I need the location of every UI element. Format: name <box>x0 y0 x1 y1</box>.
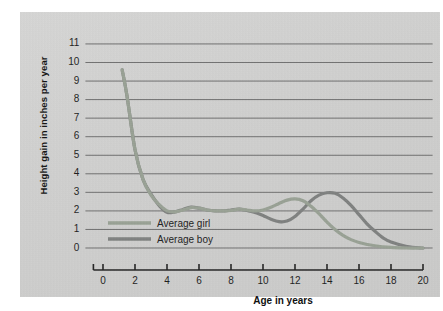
y-tick-label: 9 <box>61 75 79 86</box>
y-tick-label: 7 <box>61 112 79 123</box>
x-tick-label: 4 <box>157 275 177 286</box>
x-tick-label: 20 <box>413 275 433 286</box>
x-tick-label: 0 <box>93 275 113 286</box>
x-tick-label: 8 <box>221 275 241 286</box>
chart-panel: 01234567891011 02468101214161820 Height … <box>20 12 440 297</box>
y-tick-label: 2 <box>61 204 79 215</box>
x-tick-label: 18 <box>381 275 401 286</box>
x-tick-label: 12 <box>285 275 305 286</box>
chart-figure: 01234567891011 02468101214161820 Height … <box>0 0 443 311</box>
y-tick-label: 10 <box>61 56 79 67</box>
y-tick-label: 3 <box>61 186 79 197</box>
y-axis-title: Height gain in inches per year <box>38 46 49 206</box>
y-tick-label: 5 <box>61 149 79 160</box>
x-tick-label: 16 <box>349 275 369 286</box>
y-tick-label: 11 <box>61 37 79 48</box>
gridline-group <box>85 44 432 248</box>
y-tick-label: 8 <box>61 93 79 104</box>
y-tick-label: 6 <box>61 130 79 141</box>
y-tick-label: 4 <box>61 167 79 178</box>
x-tick-label: 10 <box>253 275 273 286</box>
x-tick-label: 14 <box>317 275 337 286</box>
y-tick-label: 1 <box>61 223 79 234</box>
x-tick-label: 2 <box>125 275 145 286</box>
legend-label-boy: Average boy <box>157 234 213 245</box>
y-tick-label: 0 <box>61 242 79 253</box>
x-tick-label: 6 <box>189 275 209 286</box>
x-axis-group <box>93 264 423 270</box>
plot-area <box>20 12 440 297</box>
legend-label-girl: Average girl <box>157 218 210 229</box>
x-axis-title: Age in years <box>123 295 443 306</box>
legend-swatch-group <box>108 223 151 239</box>
